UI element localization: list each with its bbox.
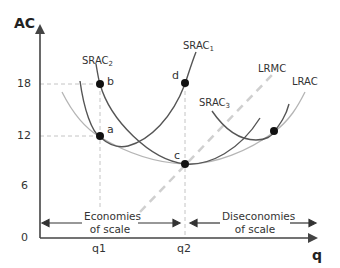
lrmc-label: LRMC (258, 64, 286, 74)
point-b (96, 80, 104, 88)
point-c-label: c (174, 150, 180, 161)
point-a (96, 132, 104, 140)
x-axis-arrowhead (308, 233, 318, 243)
x-axis-title: q (312, 248, 322, 262)
diseconomies-of-scale-label: Diseconomies of scale (220, 210, 290, 236)
srac3-label-main: SRAC (199, 97, 226, 108)
x-tick-q1: q1 (92, 243, 106, 254)
srac1-label-main: SRAC (183, 40, 210, 51)
diseconomies-arrow-right-head (309, 220, 316, 227)
srac2-label: SRAC2 (82, 56, 113, 68)
economies-arrow-left-head (42, 220, 49, 227)
economies-line1: Economies (84, 210, 136, 223)
lrmc-line (140, 75, 272, 212)
srac3-label: SRAC3 (199, 98, 230, 110)
economies-arrow-right-head (173, 220, 180, 227)
cost-curves-diagram: AC q 18 12 6 0 q1 q2 SRAC2 SRAC1 SRAC3 L… (0, 0, 340, 268)
y-axis-title: AC (14, 16, 35, 30)
srac1-label-sub: 1 (210, 45, 214, 53)
point-c (181, 160, 189, 168)
point-d-label: d (172, 70, 179, 81)
y-tick-6: 6 (21, 180, 28, 191)
lrac-curve (62, 92, 305, 164)
point-a-label: a (107, 124, 114, 135)
point-srac3-tangent (270, 127, 278, 135)
x-tick-q2: q2 (177, 243, 191, 254)
srac2-label-sub: 2 (109, 60, 113, 68)
srac2-label-main: SRAC (82, 55, 109, 66)
y-axis-arrowhead (35, 24, 45, 34)
y-tick-18: 18 (17, 78, 31, 89)
srac1-label: SRAC1 (183, 41, 214, 53)
y-tick-12: 12 (17, 130, 31, 141)
economies-line2: of scale (84, 223, 136, 236)
y-tick-0: 0 (21, 232, 28, 243)
srac3-label-sub: 3 (226, 102, 230, 110)
diseconomies-arrow-left-head (190, 220, 197, 227)
economies-of-scale-label: Economies of scale (82, 210, 138, 236)
diseconomies-line2: of scale (222, 223, 288, 236)
lrac-label: LRAC (292, 77, 318, 87)
diseconomies-line1: Diseconomies (222, 210, 288, 223)
point-b-label: b (107, 76, 114, 87)
point-d (181, 79, 189, 87)
